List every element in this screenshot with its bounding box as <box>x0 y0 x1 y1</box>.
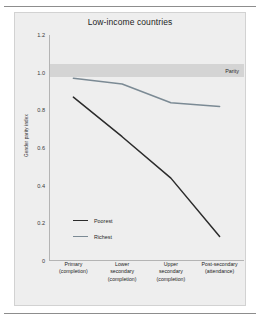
x-axis-label-line: (completion) <box>95 276 149 283</box>
y-axis-tick-label: 1.0 <box>37 70 45 76</box>
legend-swatch-richest <box>73 236 88 238</box>
y-axis-title: Gender parity index <box>24 81 29 191</box>
legend-item-poorest[interactable]: Poorest <box>73 217 113 224</box>
legend-label: Poorest <box>94 218 113 224</box>
y-axis-tick-label: 0 <box>42 258 45 264</box>
chart-legend: PoorestRichest <box>73 217 113 249</box>
legend-swatch-poorest <box>73 220 88 222</box>
x-axis-label-line: Post-secondary <box>193 261 247 268</box>
x-axis-label-line: (completion) <box>144 276 198 283</box>
legend-item-richest[interactable]: Richest <box>73 233 113 240</box>
y-axis-tick-label: 0.2 <box>37 220 45 226</box>
x-axis-label-line: secondary <box>144 268 198 275</box>
x-axis-labels: Primary(completion)Lowersecondary(comple… <box>49 261 244 299</box>
x-axis-label-line: secondary <box>95 268 149 275</box>
x-axis-category-label: Lowersecondary(completion) <box>95 261 149 283</box>
x-axis-label-line: Lower <box>95 261 149 268</box>
page-rule-top <box>4 6 256 7</box>
x-axis-category-label: Uppersecondary(completion) <box>144 261 198 283</box>
y-axis-tick-label: 1.2 <box>37 32 45 38</box>
series-line-richest <box>73 78 219 106</box>
chart-title: Low-income countries <box>15 17 245 27</box>
legend-label: Richest <box>94 234 112 240</box>
y-axis-tick-label: 0.4 <box>37 183 45 189</box>
y-axis-tick-label: 0.6 <box>37 145 45 151</box>
series-line-poorest <box>73 97 219 236</box>
x-axis-label-line: (completion) <box>46 268 100 275</box>
chart-figure: Low-income countries Gender parity index… <box>14 12 246 306</box>
x-axis-label-line: (attendance) <box>193 268 247 275</box>
x-axis-label-line: Primary <box>46 261 100 268</box>
x-axis-category-label: Post-secondary(attendance) <box>193 261 247 276</box>
x-axis-category-label: Primary(completion) <box>46 261 100 276</box>
x-axis-label-line: Upper <box>144 261 198 268</box>
y-axis-tick-label: 0.8 <box>37 107 45 113</box>
page-rule-bottom <box>4 313 256 314</box>
